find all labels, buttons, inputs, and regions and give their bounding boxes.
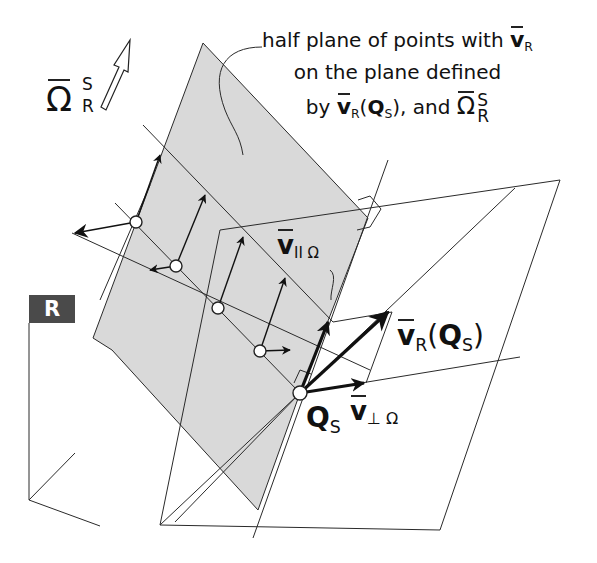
- callout-line3-prefix: by: [306, 95, 331, 119]
- v-r-arg: Q: [438, 319, 462, 352]
- v-parallel-label: vII Ω: [277, 232, 319, 261]
- reference-frame-axes: [29, 323, 100, 526]
- qs-label: QS: [306, 404, 341, 436]
- v-parallel-sub: II Ω: [294, 244, 319, 262]
- v-perp-label: v⊥ Ω: [350, 398, 398, 427]
- omega-symbol: Ω: [46, 82, 72, 116]
- omega-direction-arrow: [101, 40, 130, 110]
- callout-line1: half plane of points with: [262, 28, 504, 52]
- v-r-symbol: v: [397, 322, 415, 350]
- qs-symbol: Q: [306, 401, 330, 434]
- v-r-arg-sub: S: [462, 335, 473, 355]
- point-qs: [293, 386, 307, 400]
- callout-line2: on the plane defined: [262, 62, 533, 82]
- callout-v2-symbol: v: [337, 96, 351, 118]
- omega-sup: S: [82, 76, 93, 93]
- omega-sub: R: [82, 98, 94, 115]
- callout-v-sub: R: [524, 39, 533, 54]
- callout-q-symbol: Q: [367, 95, 384, 119]
- v-parallel-symbol: v: [277, 232, 294, 258]
- v-r-sub: R: [415, 335, 427, 355]
- v-r-qs-label: vR(QS): [397, 322, 484, 354]
- qs-sub: S: [330, 417, 341, 437]
- v-perp-sub: ⊥ Ω: [367, 409, 398, 428]
- omega-label: Ω S R: [46, 82, 72, 116]
- callout-omega-symbol: Ω: [457, 94, 475, 118]
- half-plane-callout: half plane of points with vR on the plan…: [262, 29, 533, 122]
- callout-line3-mid: ), and: [392, 95, 450, 119]
- v-perp-symbol: v: [350, 398, 367, 424]
- callout-v2-sub: R: [351, 106, 360, 121]
- frame-r-box: R: [29, 295, 75, 323]
- callout-v-symbol: v: [510, 29, 524, 51]
- callout-omega-sub: R: [477, 108, 489, 125]
